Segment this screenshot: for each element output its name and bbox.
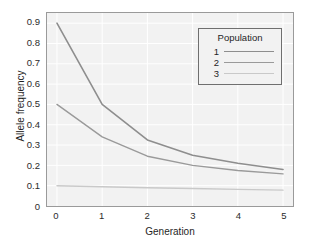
legend-entries: 123 <box>205 46 275 79</box>
x-axis-tick-labels: 012345 <box>46 211 294 225</box>
x-axis-title: Generation <box>46 227 294 237</box>
legend-line-swatch <box>224 62 274 63</box>
legend: Population 123 <box>198 28 282 85</box>
legend-entry-label: 3 <box>205 69 219 79</box>
series-line-3 <box>57 186 283 190</box>
legend-title: Population <box>205 33 275 44</box>
y-tick-label: 0.9 <box>14 18 40 28</box>
legend-line-swatch <box>224 51 274 52</box>
legend-entry-1: 1 <box>205 46 275 57</box>
x-tick-label: 2 <box>135 211 159 221</box>
y-tick-label: 0 <box>14 202 40 212</box>
x-tick-label: 4 <box>226 211 250 221</box>
legend-entry-label: 2 <box>205 58 219 68</box>
legend-entry-2: 2 <box>205 57 275 68</box>
allele-frequency-chart: 00.10.20.30.40.50.60.70.80.9 012345 Gene… <box>0 0 314 247</box>
x-tick-label: 1 <box>90 211 114 221</box>
series-line-2 <box>57 104 283 173</box>
x-tick-label: 3 <box>181 211 205 221</box>
y-axis-title: Allele frequency <box>16 31 26 181</box>
x-tick-label: 0 <box>44 211 68 221</box>
y-tick-label: 0.1 <box>14 182 40 192</box>
legend-entry-label: 1 <box>205 47 219 57</box>
legend-entry-3: 3 <box>205 68 275 79</box>
legend-line-swatch <box>224 73 274 74</box>
x-tick-label: 5 <box>272 211 296 221</box>
